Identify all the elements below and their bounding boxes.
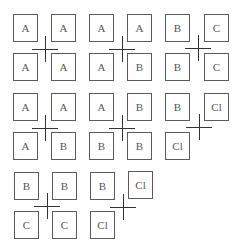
- cross-marker-icon: [109, 115, 135, 141]
- cross-marker-icon: [186, 114, 212, 140]
- cross-marker-icon: [34, 193, 60, 219]
- cross-marker-icon: [110, 194, 136, 220]
- cross-marker-icon: [185, 35, 211, 61]
- cross-marker-icon: [109, 36, 135, 62]
- cross-marker-icon: [32, 36, 58, 62]
- cross-marker-icon: [32, 115, 58, 141]
